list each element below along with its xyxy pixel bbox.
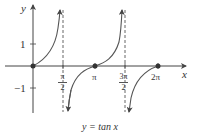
pi-half-numerator: π: [60, 73, 64, 81]
point-pi: [93, 64, 98, 69]
x-axis-label: x: [182, 69, 187, 80]
x-tick-label-pi-half: π 2: [58, 73, 67, 92]
chart-caption: y = tan x: [0, 121, 200, 132]
tan-graph: [0, 0, 200, 137]
three-pi-half-numerator: 3π: [119, 73, 127, 81]
point-2pi: [156, 64, 161, 69]
y-tick-label-neg-1: −1: [14, 83, 26, 94]
three-pi-half-denominator: 2: [122, 84, 126, 92]
branch-2-bottom-arrow: [68, 90, 71, 111]
point-origin: [31, 64, 36, 69]
pi-half-denominator: 2: [61, 84, 65, 92]
x-tick-label-2pi: 2π: [151, 73, 160, 82]
branch-2-curve: [68, 10, 122, 110]
branch-1-curve: [33, 10, 60, 66]
y-tick-label-1: 1: [20, 39, 26, 50]
y-axis-label: y: [21, 3, 26, 14]
x-tick-label-pi: π: [92, 73, 97, 82]
x-tick-label-3pi-half: 3π 2: [119, 73, 128, 92]
